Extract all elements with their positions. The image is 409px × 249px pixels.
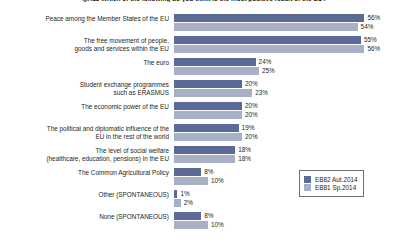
category-label: The level of social welfare(healthcare, …	[0, 146, 174, 163]
bar-line: 24%	[174, 58, 409, 66]
chart-row: The euro24%25%	[0, 58, 409, 76]
bar-eb81	[174, 133, 242, 141]
bar-group: 8%10%	[174, 168, 409, 186]
bar-line: 20%	[174, 80, 409, 88]
bar-eb81	[174, 111, 242, 119]
chart-rows: Peace among the Member States of the EU5…	[0, 14, 409, 234]
bar-value-label: 54%	[361, 23, 374, 31]
bar-line: 20%	[174, 102, 409, 110]
bar-line: 55%	[174, 36, 409, 44]
bar-eb82	[174, 102, 242, 110]
bar-value-label: 24%	[259, 58, 272, 66]
category-label-line: The euro	[0, 59, 169, 67]
category-label: Student exchange programmessuch as ERASM…	[0, 80, 174, 97]
bar-value-label: 18%	[238, 155, 251, 163]
bar-line: 54%	[174, 23, 409, 31]
legend-item[interactable]: EB82 Aut.2014	[304, 176, 358, 183]
bar-group: 24%25%	[174, 58, 409, 76]
legend-swatch-icon	[304, 184, 311, 191]
bar-eb82	[174, 168, 201, 176]
bar-eb82	[174, 124, 239, 132]
category-label: The free movement of people,goods and se…	[0, 36, 174, 53]
bar-line: 10%	[174, 177, 409, 185]
category-label: The political and diplomatic influence o…	[0, 124, 174, 141]
bar-group: 20%23%	[174, 80, 409, 98]
category-label-line: None (SPONTANEOUS)	[0, 213, 169, 221]
chart-row: The political and diplomatic influence o…	[0, 124, 409, 142]
bar-value-label: 18%	[238, 146, 251, 154]
bar-value-label: 20%	[245, 80, 258, 88]
bar-eb82	[174, 190, 177, 198]
bar-line: 23%	[174, 89, 409, 97]
bar-value-label: 2%	[184, 199, 193, 207]
bar-value-label: 56%	[367, 14, 380, 22]
category-label: Peace among the Member States of the EU	[0, 14, 174, 23]
category-label-line: The economic power of the EU	[0, 103, 169, 111]
bar-line: 20%	[174, 133, 409, 141]
chart-row: Student exchange programmessuch as ERASM…	[0, 80, 409, 98]
bar-eb81	[174, 199, 181, 207]
bar-line: 8%	[174, 212, 409, 220]
bar-eb81	[174, 45, 364, 53]
category-label-line: The free movement of people,	[0, 37, 169, 45]
bar-eb81	[174, 155, 235, 163]
bar-group: 56%54%	[174, 14, 409, 32]
legend-item[interactable]: EB81 Sp.2014	[304, 184, 358, 191]
bar-line: 20%	[174, 111, 409, 119]
bar-value-label: 23%	[255, 89, 268, 97]
category-label-line: The political and diplomatic influence o…	[0, 125, 169, 133]
bar-value-label: 20%	[245, 102, 258, 110]
category-label-line: The Common Agricultural Policy	[0, 169, 169, 177]
bar-line: 19%	[174, 124, 409, 132]
category-label: The euro	[0, 58, 174, 67]
chart-row: The level of social welfare(healthcare, …	[0, 146, 409, 164]
bar-group: 1%2%	[174, 190, 409, 208]
category-label-line: Student exchange programmes	[0, 81, 169, 89]
category-label: The economic power of the EU	[0, 102, 174, 111]
bar-value-label: 25%	[262, 67, 275, 75]
bar-group: 18%18%	[174, 146, 409, 164]
bar-eb81	[174, 23, 358, 31]
bar-eb82	[174, 58, 256, 66]
bar-value-label: 20%	[245, 133, 258, 141]
bar-line: 18%	[174, 146, 409, 154]
chart-container: QA11 Which of the following do you think…	[0, 0, 409, 249]
bar-line: 1%	[174, 190, 409, 198]
bar-eb81	[174, 221, 208, 229]
bar-value-label: 56%	[367, 45, 380, 53]
bar-group: 8%10%	[174, 212, 409, 230]
bar-line: 56%	[174, 14, 409, 22]
bar-line: 18%	[174, 155, 409, 163]
bar-value-label: 10%	[211, 177, 224, 185]
bar-group: 20%20%	[174, 102, 409, 120]
category-label-line: EU in the rest of the world	[0, 133, 169, 141]
legend-swatch-icon	[304, 176, 311, 183]
bar-eb82	[174, 36, 361, 44]
legend-label: EB81 Sp.2014	[315, 184, 356, 191]
bar-line: 8%	[174, 168, 409, 176]
chart-legend: EB82 Aut.2014EB81 Sp.2014	[299, 170, 364, 197]
bar-eb81	[174, 67, 259, 75]
bar-line: 25%	[174, 67, 409, 75]
bar-value-label: 8%	[204, 168, 213, 176]
bar-value-label: 8%	[204, 212, 213, 220]
category-label: Other (SPONTANEOUS)	[0, 190, 174, 199]
category-label-line: goods and services within the EU	[0, 45, 169, 53]
chart-row: The free movement of people,goods and se…	[0, 36, 409, 54]
bar-line: 2%	[174, 199, 409, 207]
chart-row: None (SPONTANEOUS)8%10%	[0, 212, 409, 230]
bar-line: 56%	[174, 45, 409, 53]
category-label: None (SPONTANEOUS)	[0, 212, 174, 221]
category-label-line: The level of social welfare	[0, 147, 169, 155]
bar-value-label: 19%	[242, 124, 255, 132]
chart-title: QA11 Which of the following do you think…	[0, 0, 409, 2]
bar-value-label: 55%	[364, 36, 377, 44]
bar-value-label: 20%	[245, 111, 258, 119]
category-label-line: such as ERASMUS	[0, 89, 169, 97]
bar-value-label: 10%	[211, 221, 224, 229]
bar-eb81	[174, 177, 208, 185]
category-label-line: Peace among the Member States of the EU	[0, 15, 169, 23]
chart-row: The economic power of the EU20%20%	[0, 102, 409, 120]
legend-label: EB82 Aut.2014	[315, 176, 358, 183]
bar-group: 55%56%	[174, 36, 409, 54]
